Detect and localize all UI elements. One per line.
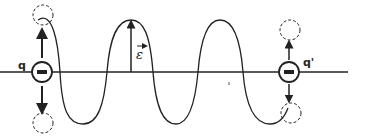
right-charge-label: q'	[303, 56, 314, 69]
wave-diagram: ε q q'	[0, 0, 371, 137]
field-label: ε	[136, 47, 143, 62]
electric-field-wave	[38, 18, 288, 124]
left-charge-label: q	[18, 59, 26, 72]
left-charge: q	[18, 5, 53, 133]
right-minus-sign	[284, 70, 294, 74]
left-ghost-bottom	[33, 113, 53, 133]
right-ghost-top	[280, 20, 300, 40]
left-minus-sign	[37, 70, 47, 74]
right-ghost-bottom	[281, 103, 301, 123]
left-ghost-top	[33, 5, 53, 25]
